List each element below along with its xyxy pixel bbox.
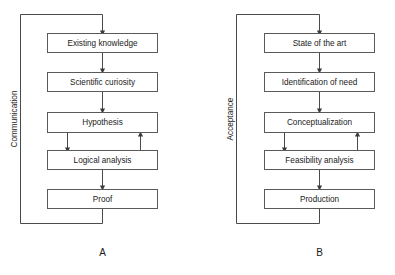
panel-a: Communication Existing knowledge Scienti… — [10, 15, 158, 258]
panel-b: Acceptance State of the art Identificati… — [226, 15, 375, 258]
panel-a-box-4: Logical analysis — [48, 151, 158, 170]
panel-b-box-1-label: State of the art — [293, 39, 347, 48]
panel-b-box-5-label: Production — [300, 195, 340, 204]
panel-a-box-4-label: Logical analysis — [74, 156, 132, 165]
panel-a-box-1-label: Existing knowledge — [67, 39, 138, 48]
panel-b-box-3: Conceptualization — [265, 113, 375, 133]
panel-a-box-2: Scientific curiosity — [48, 73, 158, 92]
flowchart-figure: Communication Existing knowledge Scienti… — [0, 0, 395, 275]
panel-a-box-3-label: Hypothesis — [82, 118, 123, 127]
panel-a-box-5-label: Proof — [93, 195, 113, 204]
panel-a-box-5: Proof — [48, 190, 158, 209]
flowchart-svg: Communication Existing knowledge Scienti… — [0, 0, 395, 275]
panel-b-letter: B — [316, 247, 323, 258]
panel-a-box-2-label: Scientific curiosity — [70, 78, 136, 87]
panel-b-side-label: Acceptance — [226, 97, 235, 140]
panel-b-box-2: Identification of need — [265, 73, 375, 92]
panel-b-box-5: Production — [265, 190, 375, 209]
panel-b-box-2-label: Identification of need — [282, 78, 358, 87]
panel-b-box-4: Feasibility analysis — [265, 151, 375, 170]
panel-a-box-3: Hypothesis — [48, 113, 158, 133]
panel-a-box-1: Existing knowledge — [48, 34, 158, 53]
panel-b-box-4-label: Feasibility analysis — [285, 156, 353, 165]
panel-b-box-3-label: Conceptualization — [287, 118, 353, 127]
panel-a-letter: A — [99, 247, 106, 258]
panel-a-side-label: Communication — [10, 90, 19, 147]
panel-b-box-1: State of the art — [265, 34, 375, 53]
